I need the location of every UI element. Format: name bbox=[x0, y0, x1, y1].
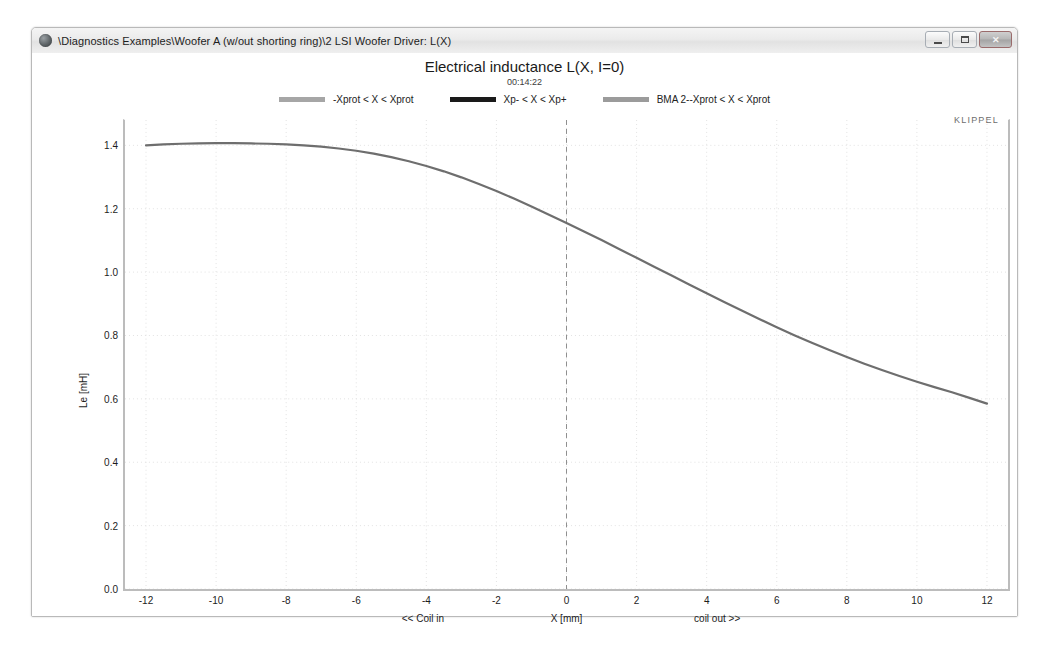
chart-subtitle: 00:14:22 bbox=[32, 77, 1017, 87]
x-axis-tick-label: 2 bbox=[634, 595, 640, 606]
legend-item[interactable]: Xp- < X < Xp+ bbox=[450, 94, 567, 105]
chart-canvas: Electrical inductance L(X, I=0) 00:14:22… bbox=[32, 53, 1017, 616]
y-axis-tick-label: 1.2 bbox=[104, 203, 118, 214]
legend-item[interactable]: BMA 2--Xprot < X < Xprot bbox=[603, 94, 770, 105]
window-title: \Diagnostics Examples\Woofer A (w/out sh… bbox=[58, 35, 451, 47]
y-axis-tick-label: 1.0 bbox=[104, 267, 118, 278]
x-axis-label-coil-in: << Coil in bbox=[402, 613, 444, 624]
y-axis-tick-label: 0.8 bbox=[104, 330, 118, 341]
x-axis-label-coil-out: coil out >> bbox=[694, 613, 740, 624]
x-axis-label: X [mm] bbox=[551, 613, 583, 624]
x-axis-tick-label: -4 bbox=[422, 595, 431, 606]
minimize-button[interactable] bbox=[925, 31, 950, 48]
x-axis-tick-label: -2 bbox=[492, 595, 501, 606]
y-axis-label: Le [mH] bbox=[78, 373, 89, 408]
figure-caption bbox=[0, 654, 1049, 661]
chart-title: Electrical inductance L(X, I=0) bbox=[32, 58, 1017, 75]
window-controls: ✕ bbox=[925, 31, 1012, 48]
legend-swatch bbox=[450, 97, 496, 102]
legend-swatch bbox=[603, 97, 649, 102]
legend-label: -Xprot < X < Xprot bbox=[333, 94, 414, 105]
y-axis-tick-label: 0.0 bbox=[104, 584, 118, 595]
x-axis-tick-label: -10 bbox=[209, 595, 223, 606]
close-button[interactable]: ✕ bbox=[979, 31, 1012, 48]
x-axis-tick-label: 12 bbox=[981, 595, 992, 606]
klippel-app-icon bbox=[39, 34, 52, 47]
x-axis-tick-label: 4 bbox=[704, 595, 710, 606]
x-axis-tick-label: 8 bbox=[844, 595, 850, 606]
chart-window: \Diagnostics Examples\Woofer A (w/out sh… bbox=[31, 27, 1018, 617]
x-axis-tick-label: -8 bbox=[282, 595, 291, 606]
y-axis-tick-label: 0.6 bbox=[104, 393, 118, 404]
x-axis-tick-label: 6 bbox=[774, 595, 780, 606]
legend-label: Xp- < X < Xp+ bbox=[504, 94, 567, 105]
x-axis-tick-label: -6 bbox=[352, 595, 361, 606]
window-titlebar[interactable]: \Diagnostics Examples\Woofer A (w/out sh… bbox=[32, 28, 1017, 54]
plot-area: 0.00.20.40.60.81.01.21.4-12-10-8-6-4-202… bbox=[123, 119, 1010, 591]
plot-svg bbox=[125, 120, 1008, 589]
x-axis-tick-label: 10 bbox=[911, 595, 922, 606]
legend-swatch bbox=[279, 97, 325, 102]
chart-legend: -Xprot < X < XprotXp- < X < Xp+BMA 2--Xp… bbox=[32, 94, 1017, 105]
maximize-button[interactable] bbox=[952, 31, 977, 48]
legend-item[interactable]: -Xprot < X < Xprot bbox=[279, 94, 414, 105]
legend-label: BMA 2--Xprot < X < Xprot bbox=[657, 94, 770, 105]
y-axis-tick-label: 0.4 bbox=[104, 457, 118, 468]
y-axis-tick-label: 0.2 bbox=[104, 520, 118, 531]
x-axis-tick-label: 0 bbox=[564, 595, 570, 606]
y-axis-tick-label: 1.4 bbox=[104, 140, 118, 151]
x-axis-tick-label: -12 bbox=[139, 595, 153, 606]
